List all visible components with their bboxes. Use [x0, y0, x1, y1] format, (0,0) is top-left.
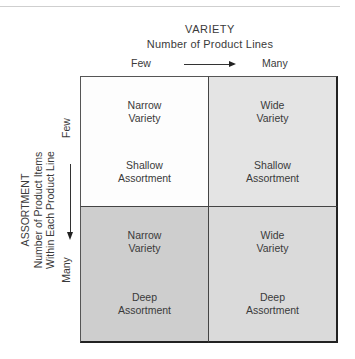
y-axis-title-block: ASSORTMENT Number of Product Items Withi…: [19, 130, 57, 290]
cell-assortment-label: Deep Assortment: [81, 291, 208, 317]
cell-narrow-deep: Narrow Variety Deep Assortment: [80, 207, 209, 343]
x-axis-high-label: Many: [262, 57, 288, 69]
y-axis-subtitle-2: Within Each Product Line: [44, 130, 57, 290]
x-axis-low-label: Few: [131, 57, 151, 69]
cell-assortment-label: Deep Assortment: [209, 291, 336, 317]
cell-wide-deep: Wide Variety Deep Assortment: [209, 207, 338, 343]
x-axis-title: VARIETY: [140, 23, 280, 35]
y-axis-high-label: Many: [60, 257, 72, 283]
cell-narrow-shallow: Narrow Variety Shallow Assortment: [80, 76, 209, 207]
cell-assortment-label: Shallow Assortment: [209, 159, 336, 185]
arrow-down-icon: [70, 164, 71, 236]
cell-variety-label: Narrow Variety: [81, 229, 208, 255]
cell-variety-label: Narrow Variety: [81, 99, 208, 125]
y-axis-subtitle-1: Number of Product Items: [32, 130, 45, 290]
x-axis-subtitle: Number of Product Lines: [140, 38, 280, 50]
y-axis-low-label: Few: [60, 118, 72, 138]
arrow-right-icon: [184, 64, 234, 65]
cell-variety-label: Wide Variety: [209, 99, 336, 125]
cell-wide-shallow: Wide Variety Shallow Assortment: [209, 76, 338, 207]
cell-variety-label: Wide Variety: [209, 229, 336, 255]
variety-assortment-matrix: Narrow Variety Shallow Assortment Wide V…: [80, 76, 338, 343]
top-rule: [0, 6, 340, 7]
y-axis-title: ASSORTMENT: [19, 130, 32, 290]
cell-assortment-label: Shallow Assortment: [81, 159, 208, 185]
